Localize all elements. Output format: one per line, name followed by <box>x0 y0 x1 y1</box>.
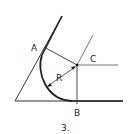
radius-line-ca <box>44 47 77 65</box>
label-r: R <box>56 73 62 83</box>
center-point <box>76 64 79 67</box>
label-a: A <box>31 43 38 53</box>
figure-number: 3. <box>61 123 70 133</box>
label-b: B <box>74 108 80 118</box>
inclined-tangent-segment <box>42 16 62 55</box>
fillet-construction-diagram: A R C B 3. <box>0 0 132 134</box>
label-c: C <box>90 54 96 64</box>
